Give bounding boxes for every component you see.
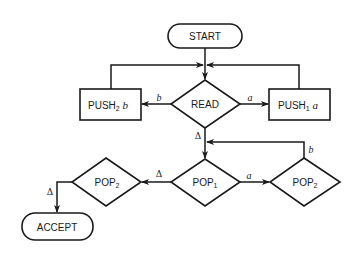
label-pop2right-pop1: b bbox=[309, 144, 314, 155]
push2-label: PUSH2 b bbox=[88, 99, 128, 112]
node-start: START bbox=[168, 24, 242, 48]
node-accept: ACCEPT bbox=[22, 213, 93, 240]
node-pop1: POP1 bbox=[171, 159, 240, 206]
push1-label: PUSH1 a bbox=[278, 99, 318, 112]
start-label: START bbox=[189, 31, 221, 42]
read-label: READ bbox=[191, 99, 219, 110]
label-read-push1: a bbox=[248, 92, 253, 103]
label-read-pop1: Δ bbox=[195, 131, 202, 141]
edge-push1-read bbox=[207, 65, 299, 89]
node-read: READ bbox=[171, 80, 240, 128]
node-pop2-right: POP2 bbox=[270, 158, 340, 206]
label-pop1-pop2left: Δ bbox=[156, 169, 163, 179]
label-pop2left-accept: Δ bbox=[47, 187, 54, 197]
edge-pop2right-pop1 bbox=[207, 142, 304, 158]
node-pop2-left: POP2 bbox=[72, 158, 141, 206]
node-push2: PUSH2 b bbox=[80, 89, 141, 120]
accept-label: ACCEPT bbox=[37, 222, 78, 233]
edge-push2-read bbox=[111, 65, 203, 89]
edge-pop2left-accept bbox=[57, 182, 72, 212]
label-read-push2: b bbox=[157, 92, 162, 103]
node-push1: PUSH1 a bbox=[269, 89, 330, 120]
label-pop1-pop2right: a bbox=[247, 170, 252, 181]
pda-flowchart: b a Δ b a Δ Δ START READ PUSH2 b PUSH1 a… bbox=[0, 0, 357, 254]
